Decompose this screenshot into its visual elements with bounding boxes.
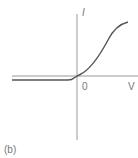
- y-axis-label: I: [82, 8, 85, 18]
- panel-label: (b): [4, 145, 16, 155]
- iv-plot: [0, 0, 138, 158]
- origin-label: 0: [82, 82, 88, 92]
- x-axis-label: V: [128, 82, 135, 92]
- iv-characteristic-figure: I 0 V (b): [0, 0, 138, 158]
- iv-curve: [12, 22, 128, 80]
